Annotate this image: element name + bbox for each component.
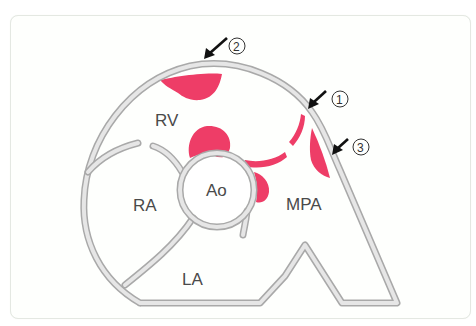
lesion-band bbox=[244, 152, 287, 168]
marker-3: 3 bbox=[332, 139, 369, 155]
heart-diagram: RV RA Ao MPA LA 2 1 3 bbox=[0, 0, 476, 326]
marker-2: 2 bbox=[204, 38, 245, 59]
arrow-2-icon bbox=[210, 38, 227, 53]
marker-1: 1 bbox=[308, 91, 348, 109]
lesion-band-upper bbox=[289, 114, 305, 146]
label-rv: RV bbox=[155, 111, 179, 130]
lesion-top bbox=[160, 74, 222, 101]
marker-3-number: 3 bbox=[357, 141, 364, 155]
label-ao: Ao bbox=[206, 181, 227, 200]
label-ra: RA bbox=[133, 196, 157, 215]
marker-1-number: 1 bbox=[336, 93, 343, 107]
marker-2-number: 2 bbox=[233, 40, 240, 54]
label-la: LA bbox=[182, 270, 203, 289]
arrow-3-icon bbox=[338, 139, 348, 148]
label-mpa: MPA bbox=[286, 195, 322, 214]
heart-walls bbox=[84, 64, 397, 303]
arrow-1-icon bbox=[314, 91, 326, 102]
